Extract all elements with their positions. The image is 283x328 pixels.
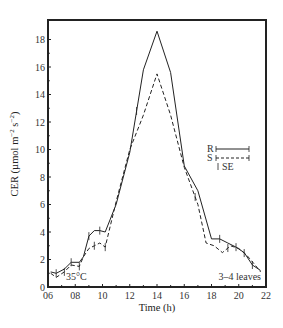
x-tick-label: 06 [43, 290, 53, 301]
y-tick-label: 10 [35, 144, 45, 155]
y-tick-label: 4 [40, 227, 45, 238]
x-tick-label: 08 [70, 290, 80, 301]
legend-label-s: S [207, 152, 213, 163]
legend-label-se: SE [222, 161, 234, 172]
y-tick-label: 12 [35, 117, 45, 128]
x-tick-label: 16 [179, 290, 189, 301]
y-tick-label: 2 [40, 254, 45, 265]
x-tick-label: 10 [98, 290, 108, 301]
data-series [51, 31, 261, 277]
series-r-line [51, 31, 261, 273]
annotation-temperature: 35°C [66, 271, 87, 282]
x-tick-label: 20 [234, 290, 244, 301]
y-tick-label: 8 [40, 172, 45, 183]
annotation-leaves: 3–4 leaves [219, 271, 262, 282]
x-tick-label: 14 [152, 290, 162, 301]
legend: RSSE [207, 143, 249, 172]
x-tick-label: 18 [207, 290, 217, 301]
series-s-line [51, 74, 261, 278]
cer-line-chart: 024681012141618 060810121416182022 RSSE … [0, 0, 283, 328]
y-tick-label: 18 [35, 34, 45, 45]
y-tick-label: 14 [35, 89, 45, 100]
x-tick-label: 22 [261, 290, 271, 301]
x-tick-label: 12 [125, 290, 135, 301]
y-tick-label: 16 [35, 62, 45, 73]
y-axis-title: CER (µmol m−2 s−2) [8, 111, 21, 196]
y-tick-label: 6 [40, 199, 45, 210]
x-axis-title: Time (h) [139, 302, 176, 314]
